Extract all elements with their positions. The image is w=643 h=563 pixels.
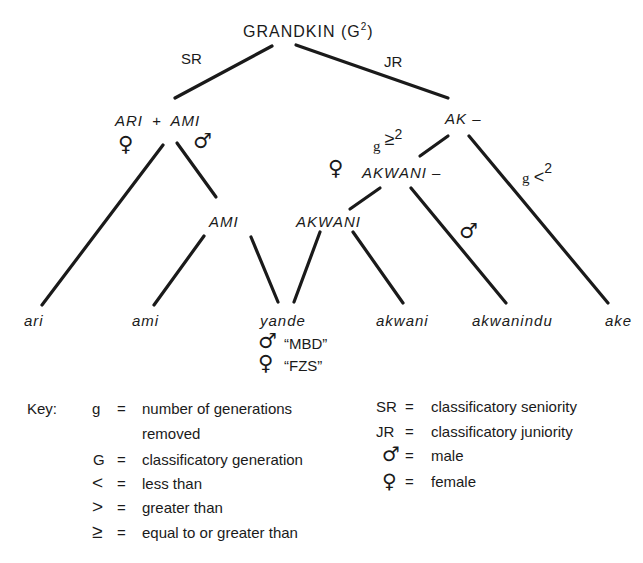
key-equals: =	[117, 401, 126, 416]
condition-n: 2	[395, 126, 403, 142]
root-label: GRANDKIN (G2)	[243, 24, 374, 40]
condition-op: ≥	[385, 129, 395, 149]
condition-g: g	[522, 170, 530, 186]
root-close: )	[367, 23, 373, 40]
key-equals: =	[117, 452, 126, 467]
key-term: >	[92, 497, 103, 516]
key-equals: =	[405, 424, 414, 439]
key-definition: female	[431, 474, 476, 489]
key-row: ♂ = male	[376, 448, 643, 468]
key-term: g	[92, 401, 100, 416]
node-ami-mid: AMI	[209, 214, 239, 229]
key-row: SR = classificatory seniority	[376, 399, 643, 419]
node-ari-ami: ARI + AMI	[115, 113, 200, 128]
leaf-akwani: akwani	[376, 313, 429, 328]
key-definition: classificatory generation	[142, 452, 303, 467]
condition-g: g	[373, 138, 381, 154]
female-icon: ♀	[118, 134, 133, 155]
condition-lt: g <2	[522, 168, 552, 186]
leaf-akwanindu: akwanindu	[472, 313, 553, 328]
key-equals: =	[117, 500, 126, 515]
key-term: G	[93, 452, 105, 467]
key-equals: =	[405, 474, 414, 489]
key-row: JR = classificatory juniority	[376, 424, 643, 444]
node-ari: ARI	[115, 112, 143, 129]
key-row: < = less than	[90, 476, 350, 496]
root-text: GRANDKIN (G	[243, 23, 361, 40]
key-row: ≥ = equal to or greater than	[90, 525, 350, 545]
male-icon: ♂	[258, 331, 277, 352]
key-equals: =	[117, 476, 126, 491]
key-definition: classificatory juniority	[431, 424, 573, 439]
key-row: G = classificatory generation	[90, 452, 350, 472]
key-equals: =	[405, 399, 414, 414]
key-equals: =	[405, 448, 414, 463]
leaf-ari: ari	[24, 313, 44, 328]
node-ami: AMI	[171, 112, 201, 129]
key-equals: =	[117, 525, 126, 540]
condition-ge: g ≥2	[373, 134, 402, 154]
kinship-diagram: GRANDKIN (G2) SR JR ARI + AMI ♀ ♂ AK – g…	[0, 0, 643, 563]
leaf-ami: ami	[132, 313, 159, 328]
key-term: SR	[376, 399, 397, 414]
key-term: ≥	[92, 522, 102, 541]
condition-n: 2	[544, 160, 552, 176]
branch-label-jr: JR	[384, 54, 402, 69]
key-definition: number of generations	[142, 401, 292, 416]
key-row: > = greater than	[90, 500, 350, 520]
plus-sign: +	[152, 112, 162, 129]
key-definition: less than	[142, 476, 202, 491]
condition-op: <	[534, 167, 545, 187]
key-definition: male	[431, 448, 464, 463]
node-akwani-dash: AKWANI –	[362, 165, 441, 180]
node-akwani-mid: AKWANI	[296, 214, 361, 229]
key-term: <	[92, 473, 103, 492]
female-icon: ♀	[328, 158, 343, 179]
key-row: g = number of generations removed	[90, 401, 350, 441]
key-definition-cont: removed	[142, 426, 200, 441]
key-definition: greater than	[142, 500, 223, 515]
node-ak: AK –	[445, 111, 482, 126]
female-icon: ♀	[382, 471, 397, 491]
male-icon: ♂	[382, 444, 400, 464]
female-icon: ♀	[258, 353, 273, 374]
key-definition: classificatory seniority	[431, 399, 577, 414]
branch-label-sr: SR	[181, 51, 202, 66]
leaf-ake: ake	[605, 313, 632, 328]
key-definition: equal to or greater than	[142, 525, 298, 540]
male-icon: ♂	[459, 221, 478, 242]
key-title: Key:	[27, 401, 57, 416]
key-row: ♀ = female	[376, 474, 643, 494]
gloss-mbd: “MBD”	[284, 336, 327, 351]
key-term: JR	[376, 424, 394, 439]
leaf-yande: yande	[260, 313, 306, 328]
gloss-fzs: “FZS”	[284, 358, 322, 373]
male-icon: ♂	[193, 131, 212, 152]
